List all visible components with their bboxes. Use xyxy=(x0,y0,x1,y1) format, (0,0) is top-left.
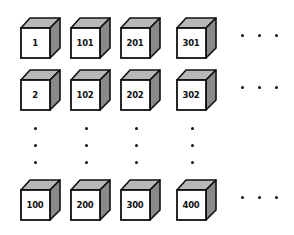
cube-300: 300 xyxy=(120,179,162,221)
cube-number: 101 xyxy=(70,28,100,58)
cube-grid-diagram: 1 2 100 101 102 xyxy=(0,0,294,235)
cube-400: 400 xyxy=(176,179,218,221)
cube-201: 201 xyxy=(120,17,162,59)
ellipsis-dot xyxy=(241,86,244,89)
cube-number: 1 xyxy=(20,28,50,58)
cube-2: 2 xyxy=(20,69,62,111)
cube-number: 301 xyxy=(176,28,206,58)
ellipsis-dot xyxy=(191,127,194,130)
ellipsis-dot xyxy=(241,196,244,199)
cube-1: 1 xyxy=(20,17,62,59)
ellipsis-dot xyxy=(241,34,244,37)
ellipsis-dot xyxy=(258,34,261,37)
ellipsis-dot xyxy=(275,86,278,89)
ellipsis-dot xyxy=(85,161,88,164)
ellipsis-dot xyxy=(85,144,88,147)
cube-number: 300 xyxy=(120,190,150,220)
ellipsis-dot xyxy=(275,34,278,37)
ellipsis-dot xyxy=(135,144,138,147)
ellipsis-dot xyxy=(34,161,37,164)
ellipsis-dot xyxy=(34,127,37,130)
cube-200: 200 xyxy=(70,179,112,221)
ellipsis-dot xyxy=(258,196,261,199)
cube-number: 202 xyxy=(120,80,150,110)
ellipsis-dot xyxy=(34,144,37,147)
ellipsis-dot xyxy=(258,86,261,89)
cube-number: 100 xyxy=(20,190,50,220)
ellipsis-dot xyxy=(135,161,138,164)
ellipsis-dot xyxy=(275,196,278,199)
ellipsis-dot xyxy=(85,127,88,130)
cube-number: 302 xyxy=(176,80,206,110)
cube-number: 201 xyxy=(120,28,150,58)
ellipsis-dot xyxy=(191,144,194,147)
cube-100: 100 xyxy=(20,179,62,221)
ellipsis-dot xyxy=(135,127,138,130)
cube-102: 102 xyxy=(70,69,112,111)
cube-301: 301 xyxy=(176,17,218,59)
cube-202: 202 xyxy=(120,69,162,111)
cube-number: 400 xyxy=(176,190,206,220)
cube-302: 302 xyxy=(176,69,218,111)
cube-number: 2 xyxy=(20,80,50,110)
cube-number: 102 xyxy=(70,80,100,110)
ellipsis-dot xyxy=(191,161,194,164)
cube-number: 200 xyxy=(70,190,100,220)
cube-101: 101 xyxy=(70,17,112,59)
